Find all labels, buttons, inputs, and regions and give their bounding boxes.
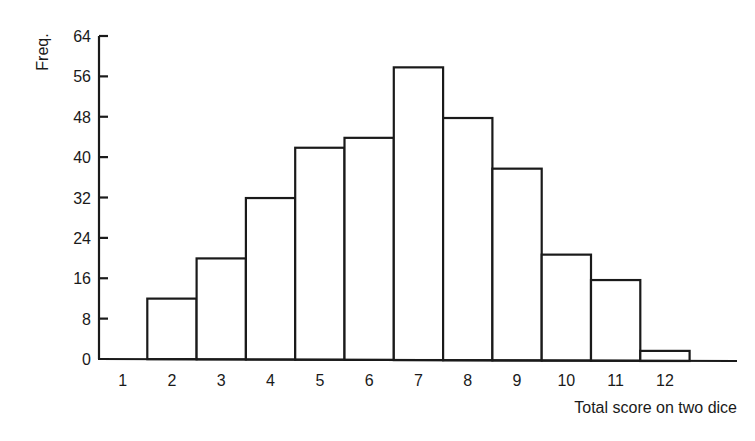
histogram-bar <box>591 280 640 361</box>
x-tick-label: 8 <box>463 372 472 389</box>
histogram-bar <box>640 351 689 361</box>
x-tick-label: 7 <box>414 372 423 389</box>
y-tick-label: 64 <box>73 28 91 45</box>
histogram-bar <box>394 67 443 360</box>
histogram-bar <box>147 299 196 360</box>
x-tick-label: 4 <box>266 372 275 389</box>
histogram-bar <box>345 138 394 360</box>
histogram-bar <box>295 148 344 360</box>
y-tick-label: 40 <box>73 149 91 166</box>
y-tick-label: 0 <box>82 351 91 368</box>
x-tick-label: 5 <box>315 372 324 389</box>
y-tick-label: 24 <box>73 230 91 247</box>
x-axis-title: Total score on two dice <box>574 399 737 416</box>
y-axis: 0816243240485664 <box>73 28 108 368</box>
bars <box>147 67 689 361</box>
x-tick-label: 10 <box>557 372 575 389</box>
histogram-bar <box>197 258 246 359</box>
x-tick-label: 12 <box>656 372 674 389</box>
histogram-bar <box>246 198 295 359</box>
x-tick-label: 3 <box>217 372 226 389</box>
x-tick-label: 2 <box>167 372 176 389</box>
x-tick-label: 11 <box>607 372 624 389</box>
x-tick-label: 6 <box>365 372 374 389</box>
histogram-chart: Freq. 0816243240485664 123456789101112 T… <box>0 0 755 441</box>
x-tick-label: 1 <box>118 372 127 389</box>
y-tick-label: 32 <box>73 190 91 207</box>
y-axis-title: Freq. <box>34 33 51 70</box>
histogram-bar <box>443 118 492 360</box>
x-tick-label: 9 <box>513 372 522 389</box>
histogram-bar <box>492 169 541 361</box>
y-tick-label: 56 <box>73 68 91 85</box>
y-tick-label: 16 <box>73 270 91 287</box>
y-tick-label: 8 <box>82 311 91 328</box>
histogram-bar <box>542 255 591 361</box>
x-axis-labels: 123456789101112 <box>118 372 674 389</box>
y-tick-label: 48 <box>73 109 91 126</box>
